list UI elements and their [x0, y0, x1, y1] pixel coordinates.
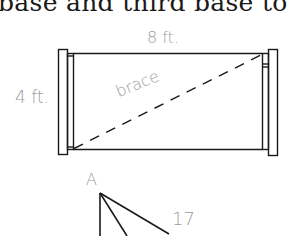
brace-line	[74, 55, 261, 149]
vertex-a-label: A	[86, 170, 97, 189]
right-post	[269, 50, 278, 156]
height-label: 4 ft.	[15, 87, 49, 107]
width-label: 8 ft.	[147, 28, 179, 47]
left-post	[59, 50, 68, 155]
triangle-side-short	[100, 193, 127, 236]
left-inner-post	[68, 54, 74, 150]
side-length-label: 17	[172, 208, 195, 229]
right-inner-post	[263, 54, 269, 150]
triangle-side-17	[100, 193, 169, 234]
